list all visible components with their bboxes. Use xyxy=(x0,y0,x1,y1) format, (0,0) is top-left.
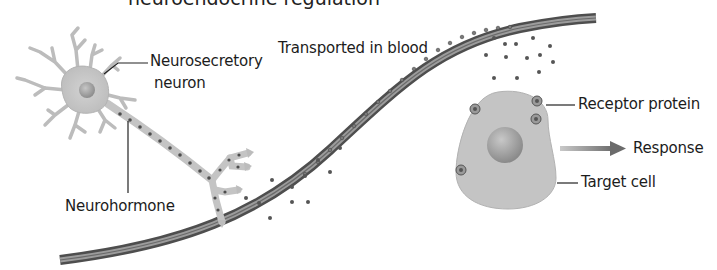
neuroendocrine-diagram: neuroendocrine regulation xyxy=(0,0,717,270)
label-receptor-protein: Receptor protein xyxy=(578,97,700,112)
response-arrow xyxy=(560,141,626,156)
label-response: Response xyxy=(633,141,703,156)
target-cell xyxy=(456,91,556,209)
target-cell-nucleus xyxy=(487,127,523,163)
label-target-cell: Target cell xyxy=(581,175,656,190)
neuron-nucleus xyxy=(79,82,95,98)
label-neurosecretory-line1: Neurosecretory xyxy=(150,54,263,69)
label-transported-in-blood: Transported in blood xyxy=(278,41,428,56)
label-neurohormone: Neurohormone xyxy=(65,199,175,214)
label-neurosecretory-line2: neuron xyxy=(154,76,206,91)
